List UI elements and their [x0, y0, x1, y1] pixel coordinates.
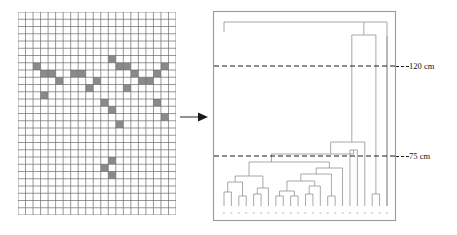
- grid-cell-filled: [146, 77, 154, 84]
- figure-root: nnnnnnnnnnnnnnnnnnnnnnn 120 cm 75 cm: [0, 0, 457, 235]
- grid-cell-filled: [101, 99, 109, 106]
- dendro-leaf-label: n: [238, 211, 240, 215]
- grid-cell-filled: [131, 70, 139, 77]
- dendro-leaf-label: n: [371, 211, 373, 215]
- dendrogram-svg: nnnnnnnnnnnnnnnnnnnnnnn: [212, 10, 397, 222]
- grid-cell-filled: [116, 63, 124, 70]
- dendro-leaf-label: n: [282, 211, 284, 215]
- grid-cell-filled: [101, 164, 109, 171]
- grid-cell-filled: [153, 99, 161, 106]
- grid-cell-filled: [56, 77, 64, 84]
- grid-cell-filled: [108, 172, 116, 179]
- grid-svg: [18, 12, 176, 215]
- dendro-leaf-label: n: [260, 211, 262, 215]
- grid-cell-filled: [108, 157, 116, 164]
- dendro-leaf-label: n: [356, 211, 358, 215]
- cut-line-75-tail: [396, 156, 409, 157]
- dendro-leaf-label: n: [223, 211, 225, 215]
- grid-cell-filled: [41, 92, 49, 99]
- dendro-leaf-label: n: [253, 211, 255, 215]
- dendro-leaf-label: n: [268, 211, 270, 215]
- species-occurrence-grid: [18, 12, 176, 215]
- grid-cell-filled: [138, 77, 146, 84]
- grid-cell-filled: [33, 63, 41, 70]
- dendro-leaf-label: n: [245, 211, 247, 215]
- cut-height-label-75: 75 cm: [409, 151, 430, 161]
- dendro-leaf-label: n: [349, 211, 351, 215]
- dendro-leaf-label: n: [275, 211, 277, 215]
- grid-cell-filled: [41, 70, 49, 77]
- dendro-leaf-label: n: [327, 211, 329, 215]
- grid-cell-filled: [153, 70, 161, 77]
- grid-cell-filled: [123, 63, 131, 70]
- cut-height-label-120: 120 cm: [409, 61, 434, 71]
- dendro-leaf-label: n: [319, 211, 321, 215]
- grid-cell-filled: [93, 77, 101, 84]
- grid-cell-filled: [108, 106, 116, 113]
- dendro-leaf-label: n: [297, 211, 299, 215]
- dendro-leaf-label: n: [379, 211, 381, 215]
- dendro-leaf-label: n: [231, 211, 233, 215]
- grid-cell-filled: [108, 56, 116, 63]
- arrow-right-icon: [180, 104, 210, 130]
- grid-cell-filled: [48, 70, 56, 77]
- grid-cell-filled: [123, 85, 131, 92]
- dendro-leaf-label: n: [364, 211, 366, 215]
- grid-cell-filled: [161, 63, 169, 70]
- dendro-leaf-label: n: [290, 211, 292, 215]
- dendro-leaf-label: n: [305, 211, 307, 215]
- grid-cell-filled: [78, 70, 86, 77]
- dendro-leaf-label: n: [312, 211, 314, 215]
- grid-cell-filled: [116, 121, 124, 128]
- dendro-leaf-label: n: [334, 211, 336, 215]
- grid-cell-filled: [161, 114, 169, 121]
- grid-cell-filled: [71, 70, 79, 77]
- grid-cell-filled: [86, 85, 94, 92]
- dendro-leaf-label: n: [342, 211, 344, 215]
- dendro-leaf-label: n: [386, 211, 388, 215]
- dendrogram-frame: [214, 12, 396, 221]
- cluster-dendrogram: nnnnnnnnnnnnnnnnnnnnnnn: [212, 10, 397, 222]
- cut-line-120-tail: [396, 66, 409, 67]
